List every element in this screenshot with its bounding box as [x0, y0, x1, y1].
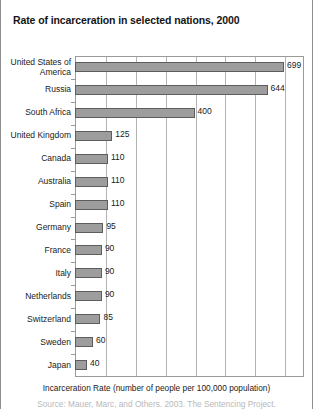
bar-row: 110 — [75, 171, 304, 194]
bar-value-label: 125 — [115, 129, 129, 139]
y-axis-tick — [71, 217, 75, 218]
bar-value-label: 644 — [271, 83, 285, 93]
bar — [75, 85, 268, 95]
bar-row: 644 — [75, 79, 304, 102]
category-label: Netherlands — [1, 292, 71, 302]
bar-row: 400 — [75, 102, 304, 125]
y-axis-tick — [71, 354, 75, 355]
category-label: Australia — [1, 177, 71, 187]
category-label: United Kingdom — [1, 131, 71, 141]
x-axis-label: Incarceration Rate (number of people per… — [1, 383, 312, 393]
bar — [75, 245, 102, 255]
bar-row: 110 — [75, 148, 304, 171]
y-axis-tick — [71, 102, 75, 103]
y-axis-tick — [71, 331, 75, 332]
bar-value-label: 90 — [105, 289, 114, 299]
bar-value-label: 110 — [111, 152, 125, 162]
bar-row: 699 — [75, 56, 304, 79]
bar-row: 125 — [75, 125, 304, 148]
bar — [75, 314, 100, 324]
chart-title: Rate of incarceration in selected nation… — [13, 14, 239, 26]
bar-value-label: 400 — [198, 106, 212, 116]
bar — [75, 62, 284, 72]
category-label: Canada — [1, 154, 71, 164]
bar-row: 95 — [75, 217, 304, 240]
chart-panel: Rate of incarceration in selected nation… — [0, 0, 313, 409]
category-label: Japan — [1, 361, 71, 371]
y-axis-tick — [71, 239, 75, 240]
category-label: France — [1, 246, 71, 256]
bar — [75, 200, 108, 210]
bar — [75, 177, 108, 187]
bar-value-label: 110 — [111, 175, 125, 185]
category-label: South Africa — [1, 108, 71, 118]
bar-row: 90 — [75, 239, 304, 262]
bar-value-label: 110 — [111, 198, 125, 208]
category-label: Sweden — [1, 338, 71, 348]
bar-value-label: 85 — [103, 312, 112, 322]
category-label: Switzerland — [1, 315, 71, 325]
bar — [75, 108, 195, 118]
bar — [75, 360, 87, 370]
category-label: Spain — [1, 200, 71, 210]
y-axis-tick — [71, 171, 75, 172]
bar — [75, 268, 102, 278]
bar-row: 90 — [75, 262, 304, 285]
y-axis-tick — [71, 79, 75, 80]
bar-value-label: 90 — [105, 243, 114, 253]
category-label: United States of America — [1, 58, 71, 77]
category-label: Italy — [1, 269, 71, 279]
bar-row: 110 — [75, 194, 304, 217]
category-label: Germany — [1, 223, 71, 233]
bar-value-label: 95 — [106, 221, 115, 231]
bar-value-label: 60 — [96, 335, 105, 345]
y-axis-tick — [71, 194, 75, 195]
y-axis-tick — [71, 285, 75, 286]
category-axis-labels: United States of AmericaRussiaSouth Afri… — [1, 56, 71, 377]
bar — [75, 337, 93, 347]
bar — [75, 291, 102, 301]
bar — [75, 131, 112, 141]
bar-value-label: 40 — [90, 358, 99, 368]
bar-row: 85 — [75, 308, 304, 331]
y-axis-tick — [71, 148, 75, 149]
bar-value-label: 699 — [287, 60, 301, 70]
bar-row: 40 — [75, 354, 304, 377]
category-label: Russia — [1, 85, 71, 95]
bar-row: 90 — [75, 285, 304, 308]
bar-series: 69964440012511011011095909090856040 — [75, 56, 304, 377]
y-axis-tick — [71, 308, 75, 309]
y-axis-tick — [71, 262, 75, 263]
y-axis-tick — [71, 125, 75, 126]
bar — [75, 154, 108, 164]
bar-row: 60 — [75, 331, 304, 354]
bar — [75, 223, 103, 233]
bar-value-label: 90 — [105, 266, 114, 276]
source-note: Source: Mauer, Marc, and Others. 2003. T… — [1, 399, 312, 409]
